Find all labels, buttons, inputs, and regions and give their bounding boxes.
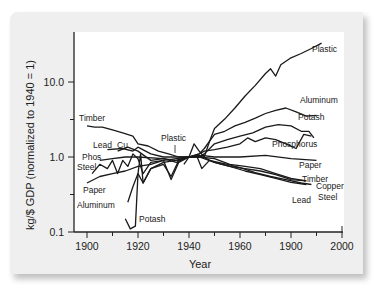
series-label-paper: Paper (299, 160, 322, 170)
y-tick-label: 10.0 (44, 76, 65, 88)
series-label-phosphorus: Phosphorus (272, 139, 317, 149)
x-tick-label: 1920 (126, 240, 150, 252)
series-label-paper: Paper (83, 185, 106, 195)
series-label-lead: Lead (292, 195, 311, 205)
x-tick-label: 1940 (177, 240, 201, 252)
series-label-plastic: Plastic (312, 44, 338, 54)
series-label-potash: Potash (139, 214, 166, 224)
series-label-copper: Copper (316, 181, 344, 191)
series-label-plastic: Plastic (161, 133, 187, 143)
series-label-steel: Steel (77, 162, 96, 172)
series-label-aluminum: Aluminum (300, 95, 338, 105)
series-label-steel: Steel (318, 192, 337, 202)
x-tick-label: 1900 (75, 240, 99, 252)
y-tick-label: 1.0 (49, 151, 64, 163)
x-tick-label: 2000 (330, 240, 354, 252)
series-label-phos: Phos (82, 152, 101, 162)
series-label-cu: Cu (117, 140, 128, 150)
x-tick-label: 1960 (228, 240, 252, 252)
series-line-copper (118, 147, 307, 181)
x-tick-label: 1900 (279, 240, 303, 252)
series-label-timber: Timber (79, 113, 105, 123)
series-label-lead: Lead (93, 140, 112, 150)
series-label-potash: Potash (298, 112, 325, 122)
line-chart: 0.11.010.0190019201940196019002000Timber… (0, 0, 379, 291)
series-label-aluminum: Aluminum (77, 200, 115, 210)
y-tick-label: 0.1 (49, 226, 64, 238)
x-axis-label: Year (189, 258, 211, 270)
y-axis-label: kg/$ GDP (normalized to 1940 = 1) (24, 60, 36, 230)
